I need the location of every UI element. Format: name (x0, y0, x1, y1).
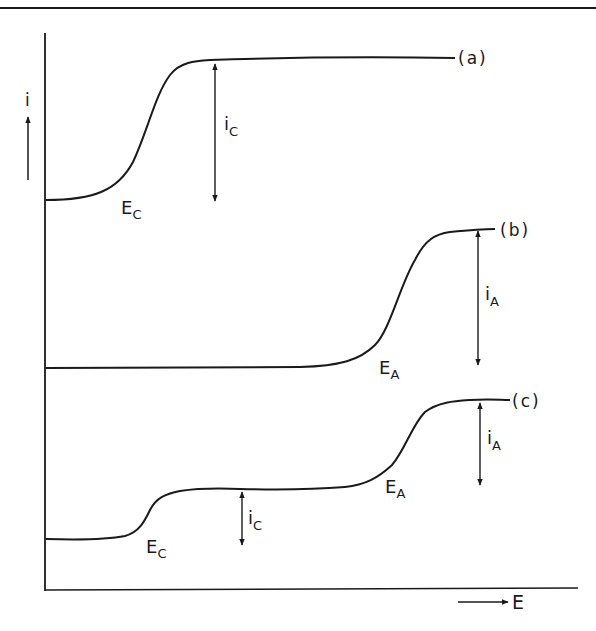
y-axis-label-group: i (25, 90, 30, 180)
curve-a-label: (a) (458, 48, 488, 68)
x-axis-label-group: E (458, 591, 524, 613)
curve-c-current-label-1: iC (248, 507, 262, 533)
curve-c-potential-label-1: EC (146, 536, 166, 561)
curve-b-potential-label: EA (379, 357, 399, 382)
curve-a-path (46, 57, 455, 200)
curve-b-current-label: iA (485, 283, 499, 309)
x-axis-label: E (512, 591, 524, 613)
curve-c-current-label-2: iA (487, 427, 501, 453)
curve-a-potential-label: EC (121, 197, 141, 222)
curve-a-current-label: iC (224, 113, 238, 139)
axes (45, 33, 578, 591)
x-axis (45, 588, 578, 590)
curve-c: (c) EC iC EA iA (46, 391, 541, 561)
polarogram-figure: i E (a) EC iC (b) EA iA (c) (0, 0, 596, 631)
curve-b: (b) EA iA (46, 220, 530, 382)
curve-c-path (46, 400, 510, 540)
curve-b-path (46, 229, 495, 368)
curve-b-label: (b) (500, 220, 530, 240)
curve-c-potential-label-2: EA (385, 476, 405, 501)
curve-a: (a) EC iC (46, 48, 488, 222)
curve-c-label: (c) (512, 391, 541, 411)
y-axis-label: i (25, 90, 30, 110)
